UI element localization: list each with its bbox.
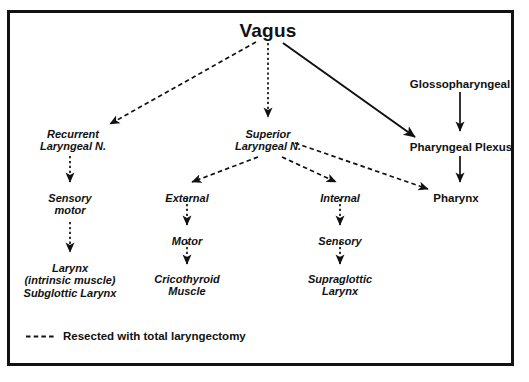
node-motor-line-1: Motor	[172, 235, 203, 247]
node-vagus: Vagus	[240, 20, 297, 41]
node-glossopharyngeal-line-1: Glossopharyngeal	[410, 78, 510, 91]
legend-label: Resected with total laryngectomy	[63, 330, 246, 342]
diagram-frame	[7, 10, 514, 366]
node-sensory-motor-line-2: motor	[48, 204, 91, 216]
figure-root: Vagus Glossopharyngeal Recurrent Larynge…	[0, 0, 529, 382]
node-recurrent-laryngeal-nerve: Recurrent Laryngeal N.	[40, 128, 106, 153]
node-supraglottic-line-2: Larynx	[308, 285, 372, 297]
node-superior-laryngeal-nerve: Superior Laryngeal N.	[235, 128, 301, 153]
node-sensory-line-1: Sensory	[318, 235, 361, 247]
node-larynx-line-1: Larynx	[24, 262, 117, 274]
node-pharyngeal-plexus: Pharyngeal Plexus	[410, 141, 512, 154]
figure-caption	[9, 371, 524, 382]
node-external-line-1: External	[165, 192, 208, 204]
node-supraglottic-larynx: Supraglottic Larynx	[308, 273, 372, 298]
node-sensory-motor: Sensory motor	[48, 192, 91, 217]
node-larynx-subglottic: Larynx (intrinsic muscle) Subglottic Lar…	[24, 262, 117, 299]
node-recurrent-line-2: Laryngeal N.	[40, 140, 106, 152]
node-pharynx: Pharynx	[433, 192, 478, 205]
node-larynx-line-2: (intrinsic muscle)	[24, 274, 117, 286]
node-internal-line-1: Internal	[320, 192, 360, 204]
node-external: External	[165, 192, 208, 204]
node-pharyngeal-plexus-line-1: Pharyngeal Plexus	[410, 141, 512, 154]
node-pharynx-line-1: Pharynx	[433, 192, 478, 205]
node-internal: Internal	[320, 192, 360, 204]
node-recurrent-line-1: Recurrent	[40, 128, 106, 140]
node-larynx-line-3: Subglottic Larynx	[24, 287, 117, 299]
node-motor: Motor	[172, 235, 203, 247]
node-cricothyroid-line-2: Muscle	[154, 285, 219, 297]
legend: Resected with total laryngectomy	[26, 330, 246, 342]
node-superior-line-2: Laryngeal N.	[235, 140, 301, 152]
node-sensory: Sensory	[318, 235, 361, 247]
node-cricothyroid-line-1: Cricothyroid	[154, 273, 219, 285]
node-vagus-line-1: Vagus	[240, 20, 297, 41]
node-superior-line-1: Superior	[235, 128, 301, 140]
node-glossopharyngeal: Glossopharyngeal	[410, 78, 510, 91]
node-supraglottic-line-1: Supraglottic	[308, 273, 372, 285]
legend-dashed-line-swatch	[26, 335, 56, 338]
node-sensory-motor-line-1: Sensory	[48, 192, 91, 204]
node-cricothyroid-muscle: Cricothyroid Muscle	[154, 273, 219, 298]
